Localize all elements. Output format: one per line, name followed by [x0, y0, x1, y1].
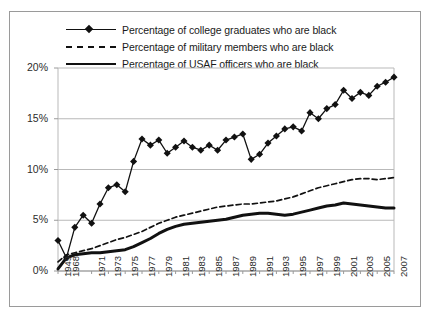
- series-marker: [248, 156, 255, 163]
- x-axis-tick-label: 1991: [264, 256, 275, 277]
- series-marker: [231, 133, 238, 140]
- y-axis-tick-label: 5%: [14, 213, 48, 225]
- x-axis-tick-label: 1973: [112, 256, 123, 277]
- x-axis-tick-label: 1975: [129, 256, 140, 277]
- series-marker: [130, 158, 137, 165]
- series-marker: [206, 142, 213, 149]
- x-axis-tick-label: 1995: [297, 256, 308, 277]
- series-marker: [197, 147, 204, 154]
- series-line-0: [58, 77, 394, 258]
- series-marker: [105, 184, 112, 191]
- x-axis-tick-label: 1987: [230, 256, 241, 277]
- x-axis-tick-label: 1997: [314, 256, 325, 277]
- x-axis-tick-label: 2007: [398, 256, 409, 277]
- y-axis-tick-label: 15%: [14, 112, 48, 124]
- x-axis-tick-label: 2005: [381, 256, 392, 277]
- series-marker: [382, 79, 389, 86]
- x-axis-tick-label: 1983: [196, 256, 207, 277]
- chart-figure: Percentage of college graduates who are …: [9, 11, 421, 307]
- x-axis-tick-label: 1979: [163, 256, 174, 277]
- series-line-2: [58, 203, 394, 269]
- series-marker: [239, 130, 246, 137]
- x-axis-tick-label: 1977: [146, 256, 157, 277]
- y-axis-tick-label: 20%: [14, 61, 48, 73]
- series-marker: [290, 123, 297, 130]
- x-axis-tick-label: 1989: [247, 256, 258, 277]
- series-marker: [96, 200, 103, 207]
- y-axis-tick-label: 0%: [14, 264, 48, 276]
- series-marker: [390, 74, 397, 81]
- series-marker: [155, 137, 162, 144]
- x-axis-tick-label: 1985: [213, 256, 224, 277]
- series-marker: [54, 237, 61, 244]
- y-axis-tick-label: 10%: [14, 163, 48, 175]
- x-axis-tick-label: 1999: [331, 256, 342, 277]
- x-axis-tick-label: 2001: [348, 256, 359, 277]
- x-axis-tick-label: 2003: [364, 256, 375, 277]
- series-marker: [298, 127, 305, 134]
- series-marker: [332, 101, 339, 108]
- x-axis-tick-label: 1971: [96, 256, 107, 277]
- x-axis-tick-label: 1968: [70, 256, 81, 277]
- x-axis-tick-label: 1993: [280, 256, 291, 277]
- plot-area: 0%5%10%15%20%194919681971197319751977197…: [10, 12, 422, 308]
- x-axis-tick-label: 1981: [180, 256, 191, 277]
